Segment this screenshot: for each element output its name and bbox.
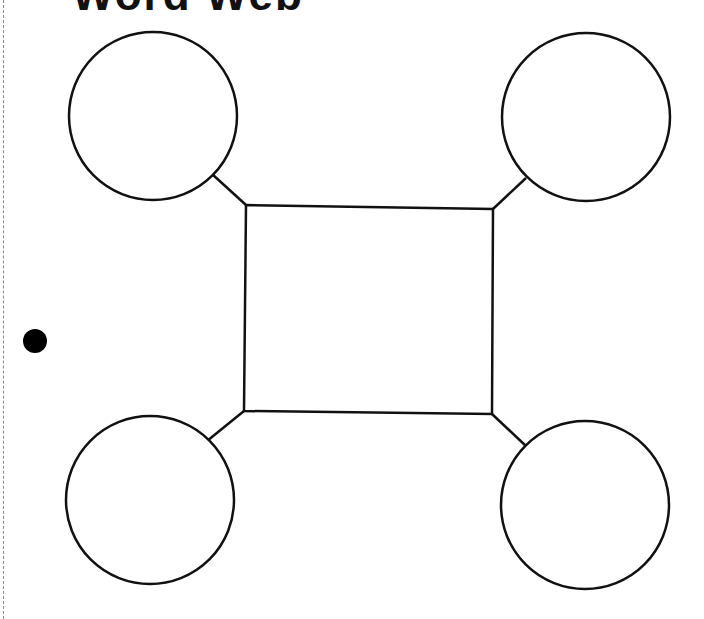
word-web-diagram — [0, 0, 704, 619]
connector-top-left — [212, 174, 246, 205]
circle-top-right — [502, 33, 670, 201]
connector-top-right — [493, 178, 526, 209]
connector-bottom-right — [492, 414, 527, 447]
circle-top-left — [69, 32, 237, 200]
center-box — [244, 205, 493, 414]
connector-bottom-left — [207, 411, 244, 441]
circle-bottom-left — [66, 416, 234, 584]
circle-bottom-right — [501, 421, 669, 589]
